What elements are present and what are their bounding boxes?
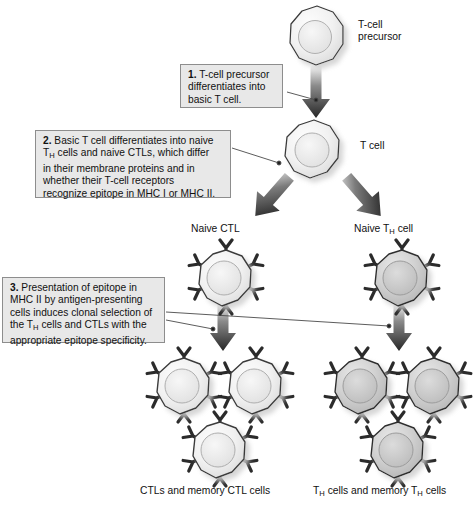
step-2-line-1: Basic T cell differentiates into naive	[54, 135, 213, 146]
step-1-line-3: basic T cell.	[188, 94, 276, 106]
label-th-results-c: cells	[423, 485, 446, 496]
naive-th-cell	[362, 240, 442, 318]
step-2-number: 2.	[43, 135, 52, 146]
step-2-th-subscript: H	[49, 151, 54, 160]
step-1-line-1: T-cell precursor	[199, 69, 269, 80]
step-3-line-4: cells and CTLs with the	[41, 319, 146, 330]
callout-step-1: 1. T-cell precursor differentiates into …	[180, 64, 283, 108]
label-precursor-line-2: precursor	[358, 31, 402, 43]
label-precursor-line-1: T-cell	[358, 19, 402, 31]
figure-canvas: 1. T-cell precursor differentiates into …	[0, 0, 475, 515]
label-t-cell-text: T cell	[360, 140, 384, 151]
label-t-cell: T cell	[360, 140, 384, 152]
step-3-th-subscript: H	[33, 323, 38, 332]
th-clone-cell	[358, 412, 438, 490]
label-naive-th-pre: Naive T	[354, 223, 389, 234]
step-1-line-2: differentiates into	[188, 81, 276, 93]
label-naive-th-post: cell	[395, 223, 413, 234]
basic-t-cell	[277, 116, 351, 188]
label-ctl-results: CTLs and memory CTL cells	[140, 485, 270, 497]
label-ctl-results-text: CTLs and memory CTL cells	[140, 485, 270, 496]
label-th-results-b: cells and memory T	[325, 485, 418, 496]
step-1-number: 1.	[188, 69, 197, 80]
step-3-number: 3.	[10, 282, 19, 293]
step-3-line-3: cells induces clonal selection of	[10, 307, 158, 319]
ctl-clone-cell	[180, 412, 260, 490]
step-3-line-5: appropriate epitope specificity.	[10, 335, 158, 347]
callout-step-3: 3. Presentation of epitope in MHC II by …	[2, 277, 165, 343]
naive-ctl-cell	[186, 240, 266, 318]
label-naive-th-cell: Naive TH cell	[354, 223, 413, 238]
callout-step-2: 2. Basic T cell differentiates into naiv…	[35, 130, 231, 198]
step-2-line-2: cells and naive CTLs, which differ	[58, 147, 210, 158]
t-cell-precursor-cell	[281, 2, 355, 76]
step-2-line-5: recognize epitope in MHC I or MHC II.	[43, 188, 224, 200]
step-2-line-3: in their membrane proteins and in	[43, 163, 224, 175]
label-naive-ctl-text: Naive CTL	[191, 223, 240, 234]
step-3-line-2: MHC II by antigen-presenting	[10, 294, 158, 306]
label-th-results: TH cells and memory TH cells	[313, 485, 446, 500]
step-2-line-4: whether their T-cell receptors	[43, 175, 224, 187]
step-3-line-1: Presentation of epitope in	[21, 282, 137, 293]
label-t-cell-precursor: T-cell precursor	[358, 19, 402, 43]
label-naive-ctl: Naive CTL	[191, 223, 240, 235]
